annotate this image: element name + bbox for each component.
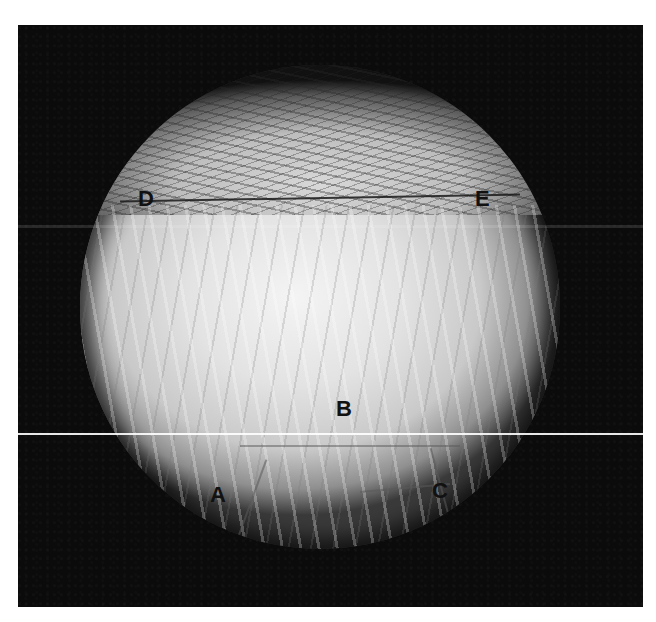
scan-line-lower xyxy=(18,433,643,435)
polygonal-cell-structures xyxy=(240,445,460,549)
micrograph-frame: D E B A C xyxy=(18,25,643,607)
scan-line-upper xyxy=(18,225,643,228)
label-b: B xyxy=(336,398,352,420)
label-e: E xyxy=(475,188,490,210)
label-d: D xyxy=(138,188,154,210)
label-a: A xyxy=(210,484,226,506)
circular-field-of-view xyxy=(80,65,560,549)
cell-boundary xyxy=(235,459,268,544)
label-c: C xyxy=(432,480,448,502)
